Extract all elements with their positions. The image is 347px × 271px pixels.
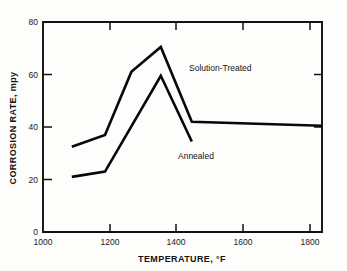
x-tick-label-1400: 1400	[167, 237, 186, 247]
x-tick-label-1000: 1000	[34, 237, 53, 247]
series-line-annealed	[72, 76, 192, 177]
y-axis-ticks	[43, 22, 52, 232]
plot-frame	[43, 22, 322, 232]
x-tick-label-1800: 1800	[301, 237, 320, 247]
x-tick-label-1600: 1600	[234, 237, 253, 247]
x-axis-tick-labels: 1000 1200 1400 1600 1800	[34, 237, 320, 247]
x-tick-label-1200: 1200	[101, 237, 120, 247]
y-tick-label-60: 60	[29, 70, 39, 80]
annotation-solution-treated: Solution-Treated	[189, 63, 252, 73]
x-axis-ticks	[110, 22, 322, 232]
y-axis-title: CORROSION RATE, mpy	[8, 72, 18, 185]
axis-frame-rect	[43, 22, 322, 232]
corrosion-rate-line-chart: 80 60 40 20 0 1000 1200 1400 1600 1800	[0, 0, 347, 271]
y-tick-label-40: 40	[29, 122, 39, 132]
y-tick-label-80: 80	[29, 17, 39, 27]
annotation-annealed: Annealed	[178, 151, 214, 161]
chart-container: 80 60 40 20 0 1000 1200 1400 1600 1800	[0, 0, 347, 271]
x-axis-title: TEMPERATURE, °F	[138, 254, 226, 264]
y-tick-label-20: 20	[29, 175, 39, 185]
y-tick-label-0: 0	[33, 227, 38, 237]
series-line-solution-treated	[72, 47, 322, 147]
y-axis-tick-labels: 80 60 40 20 0	[29, 17, 39, 237]
